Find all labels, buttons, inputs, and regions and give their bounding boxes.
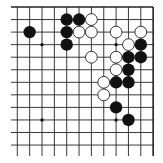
star-point <box>40 43 43 46</box>
go-board[interactable] <box>0 0 163 163</box>
black-stone[interactable] <box>122 76 134 88</box>
white-stone[interactable] <box>110 64 122 76</box>
white-stone[interactable] <box>135 26 147 38</box>
black-stone[interactable] <box>60 38 72 50</box>
white-stone[interactable] <box>86 51 98 63</box>
star-point <box>114 43 117 46</box>
black-stone[interactable] <box>135 38 147 50</box>
black-stone[interactable] <box>110 101 122 113</box>
black-stone[interactable] <box>110 76 122 88</box>
white-stone[interactable] <box>73 26 85 38</box>
white-stone[interactable] <box>110 26 122 38</box>
white-stone[interactable] <box>110 51 122 63</box>
white-stone[interactable] <box>86 26 98 38</box>
white-stone[interactable] <box>98 76 110 88</box>
black-stone[interactable] <box>23 26 35 38</box>
white-stone[interactable] <box>98 89 110 101</box>
star-point <box>40 118 43 121</box>
black-stone[interactable] <box>73 13 85 25</box>
black-stone[interactable] <box>122 64 134 76</box>
white-stone[interactable] <box>123 39 135 51</box>
black-stone[interactable] <box>122 51 134 63</box>
star-point <box>114 118 117 121</box>
black-stone[interactable] <box>122 114 134 126</box>
black-stone[interactable] <box>135 51 147 63</box>
black-stone[interactable] <box>60 26 72 38</box>
black-stone[interactable] <box>60 13 72 25</box>
white-stone[interactable] <box>86 14 98 26</box>
